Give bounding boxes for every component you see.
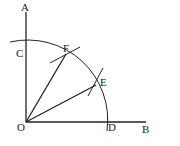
label-B: B (142, 123, 149, 135)
label-D: D (108, 121, 116, 133)
label-F: F (63, 42, 69, 54)
label-A: A (21, 1, 29, 13)
label-C: C (16, 47, 23, 59)
label-E: E (100, 76, 107, 88)
label-O: O (17, 121, 25, 133)
geometry-diagram: A C F E O D B (0, 0, 180, 146)
